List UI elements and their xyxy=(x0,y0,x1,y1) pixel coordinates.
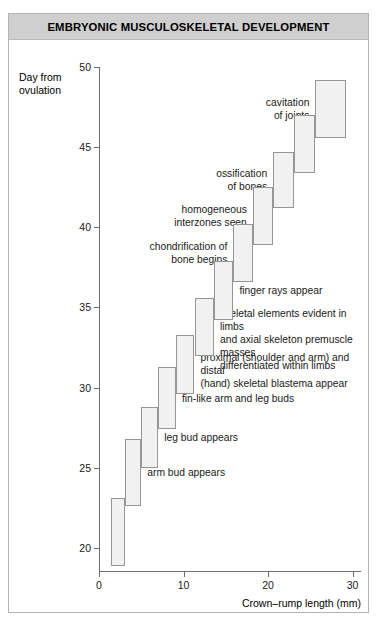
y-tick-mark xyxy=(94,67,99,68)
page-title: EMBRYONIC MUSCULOSKELETAL DEVELOPMENT xyxy=(9,14,368,40)
step-box xyxy=(294,115,315,173)
step-box xyxy=(273,152,294,208)
x-tick-label: 20 xyxy=(262,579,274,591)
step-box xyxy=(214,261,233,320)
x-tick-label: 30 xyxy=(347,579,359,591)
plot-area: 20253035404550 0102030 arm bud appearsle… xyxy=(99,67,361,572)
y-tick-label: 40 xyxy=(79,221,91,233)
y-tick-label: 45 xyxy=(79,141,91,153)
stage-annotation: skeletal elements evident in limbs and a… xyxy=(220,307,361,372)
y-axis-line xyxy=(99,67,100,572)
y-axis-label-line1: Day from xyxy=(19,71,85,84)
x-tick-label: 10 xyxy=(178,579,190,591)
stage-annotation: arm bud appears xyxy=(147,466,225,479)
y-tick-mark xyxy=(94,548,99,549)
title-band: EMBRYONIC MUSCULOSKELETAL DEVELOPMENT xyxy=(9,14,368,40)
y-tick-label: 30 xyxy=(79,382,91,394)
y-tick-label: 50 xyxy=(79,61,91,73)
x-axis-line xyxy=(99,571,361,572)
y-tick-mark xyxy=(94,147,99,148)
y-axis-label-line2: ovulation xyxy=(19,84,85,97)
y-tick-mark xyxy=(94,468,99,469)
step-box xyxy=(315,80,345,138)
step-box xyxy=(233,224,252,282)
y-tick-label: 20 xyxy=(79,542,91,554)
y-axis-label: Day from ovulation xyxy=(19,71,85,96)
stage-annotation: leg bud appears xyxy=(164,431,238,444)
stage-annotation: fin-like arm and leg buds xyxy=(182,392,294,405)
step-box xyxy=(125,439,141,506)
y-tick-label: 35 xyxy=(79,301,91,313)
x-axis-label: Crown–rump length (mm) xyxy=(99,597,361,609)
y-tick-mark xyxy=(94,307,99,308)
y-tick-mark xyxy=(94,227,99,228)
x-tick-mark xyxy=(184,572,185,577)
stage-annotation: finger rays appear xyxy=(239,284,322,297)
step-box xyxy=(253,187,273,245)
x-tick-label: 0 xyxy=(96,579,102,591)
figure-panel: EMBRYONIC MUSCULOSKELETAL DEVELOPMENT Da… xyxy=(8,13,369,613)
y-tick-mark xyxy=(94,388,99,389)
step-box xyxy=(158,367,176,430)
step-box xyxy=(176,335,195,394)
step-box xyxy=(111,498,125,565)
y-tick-label: 25 xyxy=(79,462,91,474)
x-tick-mark xyxy=(99,572,100,577)
step-box xyxy=(195,298,214,356)
x-tick-mark xyxy=(268,572,269,577)
x-tick-mark xyxy=(353,572,354,577)
step-box xyxy=(141,407,158,468)
